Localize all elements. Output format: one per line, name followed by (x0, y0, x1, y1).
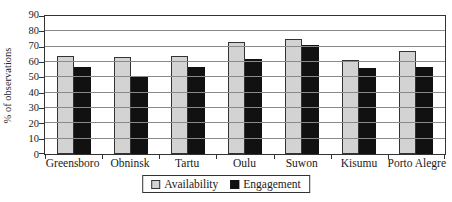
x-axis-labels: GreensboroObninskTartuOuluSuwonKisumuPor… (44, 157, 446, 169)
legend-item-engagement: Engagement (230, 178, 300, 190)
bar-group-porto-alegre (388, 16, 445, 154)
gridline-20 (45, 122, 445, 123)
gridline-30 (45, 107, 445, 108)
bar-engagement-kisumu (359, 68, 376, 154)
y-tick-mark-70 (39, 47, 44, 48)
bar-group-oulu (216, 16, 273, 154)
y-tick-mark-50 (39, 77, 44, 78)
plot-area (44, 15, 446, 155)
y-tick-mark-40 (39, 93, 44, 94)
bar-engagement-tartu (188, 67, 205, 154)
bar-availability-obninsk (114, 57, 131, 154)
bar-engagement-porto-alegre (416, 67, 433, 154)
gridline-10 (45, 138, 445, 139)
x-label-porto-alegre: Porto Alegre (388, 157, 446, 169)
bar-chart: % of observations 0102030405060708090 Gr… (0, 0, 452, 202)
y-tick-label-90: 90 (29, 9, 40, 21)
bar-group-greensboro (45, 16, 102, 154)
bar-group-obninsk (102, 16, 159, 154)
y-tick-label-50: 50 (29, 71, 40, 83)
y-tick-label-60: 60 (29, 56, 40, 68)
y-tick-mark-80 (39, 31, 44, 32)
gridline-50 (45, 76, 445, 77)
y-tick-mark-60 (39, 62, 44, 63)
y-tick-label-40: 40 (29, 87, 40, 99)
y-tick-label-10: 10 (29, 133, 40, 145)
bar-availability-greensboro (57, 56, 74, 154)
y-axis: 0102030405060708090 (16, 15, 42, 155)
legend-swatch-availability (151, 180, 160, 189)
legend-label-availability: Availability (164, 178, 218, 190)
y-tick-mark-20 (39, 123, 44, 124)
bar-group-kisumu (331, 16, 388, 154)
y-tick-mark-10 (39, 139, 44, 140)
y-tick-label-0: 0 (34, 149, 39, 161)
bar-engagement-greensboro (74, 67, 91, 154)
y-tick-label-30: 30 (29, 102, 40, 114)
y-tick-mark-0 (39, 153, 44, 154)
legend-label-engagement: Engagement (243, 178, 300, 190)
gridline-40 (45, 92, 445, 93)
bar-groups (45, 16, 445, 154)
y-tick-label-20: 20 (29, 118, 40, 130)
gridline-70 (45, 46, 445, 47)
legend: AvailabilityEngagement (142, 175, 310, 193)
y-tick-label-70: 70 (29, 40, 40, 52)
bar-group-suwon (274, 16, 331, 154)
x-label-tartu: Tartu (159, 157, 216, 169)
bar-engagement-obninsk (131, 76, 148, 154)
gridline-80 (45, 30, 445, 31)
y-tick-label-80: 80 (29, 25, 40, 37)
y-axis-title: % of observations (0, 15, 16, 155)
bar-availability-tartu (171, 56, 188, 154)
y-tick-mark-30 (39, 108, 44, 109)
x-label-greensboro: Greensboro (44, 157, 101, 169)
bar-group-tartu (159, 16, 216, 154)
x-label-suwon: Suwon (273, 157, 330, 169)
y-axis-title-text: % of observations (3, 47, 14, 123)
x-label-oulu: Oulu (216, 157, 273, 169)
x-label-obninsk: Obninsk (101, 157, 158, 169)
y-tick-mark-90 (39, 16, 44, 17)
legend-item-availability: Availability (151, 178, 218, 190)
legend-swatch-engagement (230, 180, 239, 189)
x-label-kisumu: Kisumu (330, 157, 387, 169)
gridline-60 (45, 61, 445, 62)
